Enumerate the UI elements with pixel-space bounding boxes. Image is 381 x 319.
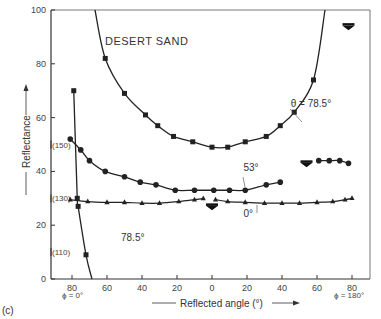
chart-title: DESERT SAND bbox=[105, 35, 188, 47]
x-axis-ticks: 80604020020406080 bbox=[67, 275, 357, 293]
y-tick-label: 20 bbox=[36, 220, 46, 230]
specular-arrow-icon bbox=[343, 23, 355, 30]
x-tick-label: 40 bbox=[137, 283, 147, 293]
specular-arrow-icon bbox=[301, 160, 313, 167]
y-side-label: (110) bbox=[52, 248, 70, 257]
annotation-label: 53° bbox=[244, 162, 259, 173]
phi-0-label: ϕ = 0° bbox=[62, 291, 83, 300]
y-side-label: (150) bbox=[52, 141, 71, 150]
y-tick-label: 100 bbox=[31, 5, 46, 15]
x-tick-label: 0 bbox=[209, 283, 214, 293]
arrow-up-icon bbox=[24, 84, 29, 91]
svg-text:Reflectance: Reflectance bbox=[21, 115, 32, 168]
data-series bbox=[67, 10, 354, 279]
plot-frame bbox=[51, 10, 370, 279]
x-tick-label: 60 bbox=[312, 283, 322, 293]
svg-text:Reflected angle (°): Reflected angle (°) bbox=[180, 298, 263, 309]
y-tick-label: 60 bbox=[36, 113, 46, 123]
annotations: θ = 78.5°53°0°78.5° bbox=[121, 23, 355, 243]
phi-180-label: ϕ = 180° bbox=[334, 291, 364, 300]
y-side-label: (130) bbox=[52, 194, 71, 203]
series-2 bbox=[316, 158, 351, 166]
y-tick-label: 80 bbox=[36, 59, 46, 69]
x-tick-label: 40 bbox=[277, 283, 287, 293]
specular-arrow-icon bbox=[206, 203, 218, 210]
annotation-label: θ = 78.5° bbox=[291, 98, 331, 109]
reflectance-chart: 020406080100(150)(130)(110) 806040200204… bbox=[0, 0, 381, 319]
annotation-label: 78.5° bbox=[121, 232, 144, 243]
x-tick-label: 20 bbox=[242, 283, 252, 293]
arrow-right-icon bbox=[293, 301, 300, 306]
x-tick-label: 20 bbox=[172, 283, 182, 293]
y-axis-label: Reflectance bbox=[21, 84, 32, 195]
annotation-label: 0° bbox=[244, 208, 254, 219]
series-4 bbox=[71, 88, 92, 279]
figure-label: (c) bbox=[2, 305, 14, 316]
y-tick-label: 40 bbox=[36, 166, 46, 176]
x-axis-label: Reflected angle (°) bbox=[152, 298, 300, 309]
x-tick-label: 60 bbox=[102, 283, 112, 293]
y-tick-label: 0 bbox=[41, 274, 46, 284]
series-0 bbox=[95, 10, 325, 150]
